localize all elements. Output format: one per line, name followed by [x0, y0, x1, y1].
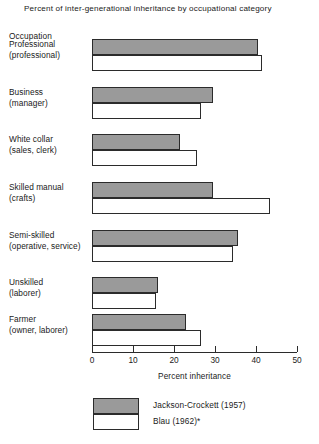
category-label-line: (operative, service) — [9, 241, 89, 252]
x-tick-label: 30 — [210, 355, 219, 365]
category-label: Farmer(owner, laborer) — [9, 314, 89, 336]
category-label-line: (crafts) — [9, 193, 89, 204]
legend-label-blau: Blau (1962)* — [153, 416, 200, 426]
x-tick-label: 40 — [251, 355, 260, 365]
x-tick — [133, 346, 134, 352]
bar-jackson-crockett — [92, 134, 180, 150]
category-label: Skilled manual(crafts) — [9, 182, 89, 204]
bar-blau — [92, 150, 197, 166]
category-label-line: Semi-skilled — [9, 230, 89, 241]
category-group: Semi-skilled(operative, service) — [0, 230, 319, 262]
x-tick-label: 0 — [90, 355, 95, 365]
legend-swatch-jackson-crockett — [93, 398, 139, 414]
category-label-line: (owner, laborer) — [9, 325, 89, 336]
x-tick-label: 10 — [128, 355, 137, 365]
x-tick-label: 20 — [169, 355, 178, 365]
category-group: White collar(sales, clerk) — [0, 134, 319, 166]
category-label: Semi-skilled(operative, service) — [9, 230, 89, 252]
x-axis-line — [92, 352, 297, 353]
category-label-line: Skilled manual — [9, 182, 89, 193]
x-tick — [174, 346, 175, 352]
x-tick — [92, 346, 93, 352]
bar-jackson-crockett — [92, 277, 158, 293]
category-label-line: Professional — [9, 39, 89, 50]
bar-blau — [92, 246, 233, 262]
category-label-line: Unskilled — [9, 277, 89, 288]
x-tick — [297, 346, 298, 352]
bar-jackson-crockett — [92, 39, 258, 55]
category-label: White collar(sales, clerk) — [9, 134, 89, 156]
category-label-line: (manager) — [9, 98, 89, 109]
x-axis-title: Percent inheritance — [92, 372, 297, 381]
category-group: Skilled manual(crafts) — [0, 182, 319, 214]
x-tick-label: 50 — [292, 355, 301, 365]
category-label: Unskilled(laborer) — [9, 277, 89, 299]
category-group: Professional(professional) — [0, 39, 319, 71]
category-label-line: (sales, clerk) — [9, 145, 89, 156]
bar-blau — [92, 198, 270, 214]
legend-swatch-blau — [93, 414, 139, 430]
x-tick — [256, 346, 257, 352]
bar-jackson-crockett — [92, 230, 238, 246]
bar-jackson-crockett — [92, 314, 186, 330]
category-label: Professional(professional) — [9, 39, 89, 61]
category-label-line: (professional) — [9, 50, 89, 61]
bar-blau — [92, 330, 201, 346]
bar-jackson-crockett — [92, 87, 213, 103]
category-label-line: White collar — [9, 134, 89, 145]
category-label-line: Business — [9, 87, 89, 98]
category-group: Unskilled(laborer) — [0, 277, 319, 309]
category-label-line: Farmer — [9, 314, 89, 325]
x-tick — [215, 346, 216, 352]
category-group: Business(manager) — [0, 87, 319, 119]
bar-blau — [92, 55, 262, 71]
legend-label-jackson-crockett: Jackson-Crockett (1957) — [153, 400, 246, 410]
category-group: Farmer(owner, laborer) — [0, 314, 319, 346]
bar-jackson-crockett — [92, 182, 213, 198]
bar-blau — [92, 103, 201, 119]
bar-blau — [92, 293, 156, 309]
category-label-line: (laborer) — [9, 288, 89, 299]
category-label: Business(manager) — [9, 87, 89, 109]
